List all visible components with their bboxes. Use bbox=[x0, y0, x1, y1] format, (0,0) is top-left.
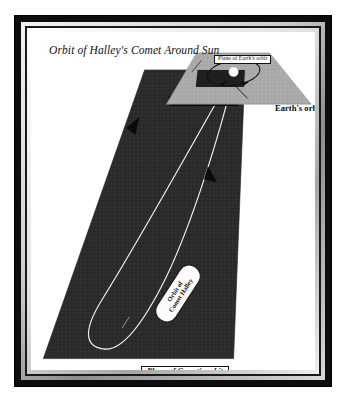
label-plane-of-earths-orbit: Plane of Earth's orbit bbox=[214, 55, 271, 64]
page-title: Orbit of Halley's Comet Around Sun bbox=[49, 44, 219, 56]
sun-icon bbox=[229, 67, 238, 76]
picture-frame: Orbit of Halley's Comet Around Sun Plane… bbox=[14, 15, 332, 387]
comet-orbit-plane bbox=[43, 70, 245, 359]
frame-bevel-inner: Orbit of Halley's Comet Around Sun Plane… bbox=[27, 28, 319, 374]
label-earths-orbit: Earth's orbit bbox=[275, 103, 315, 113]
frame-bevel-outer: Orbit of Halley's Comet Around Sun Plane… bbox=[21, 22, 325, 380]
frame-bevel-mid: Orbit of Halley's Comet Around Sun Plane… bbox=[25, 26, 321, 376]
label-plane-of-comets-orbit: Plane of Comet's orbit bbox=[141, 366, 229, 370]
diagram-canvas: Orbit of Halley's Comet Around Sun Plane… bbox=[31, 32, 315, 370]
screenshot-root: Orbit of Halley's Comet Around Sun Plane… bbox=[0, 0, 346, 402]
